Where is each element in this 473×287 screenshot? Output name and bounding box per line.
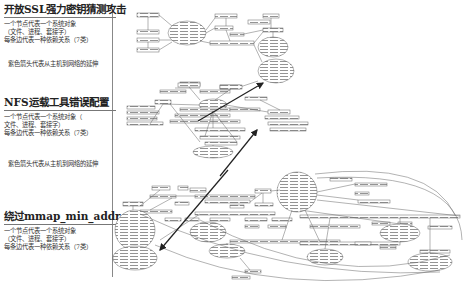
graph-mmap: [113, 171, 462, 280]
graph-nfs: [127, 83, 308, 158]
graph-openssl: [137, 13, 294, 89]
provenance-graphs: [0, 0, 473, 287]
